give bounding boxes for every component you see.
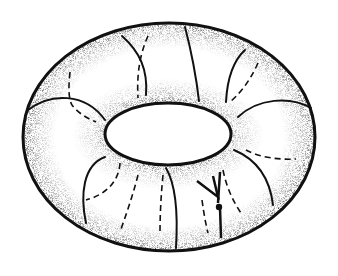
inner-hole-outline — [105, 103, 231, 165]
torus-drawing — [0, 0, 338, 276]
marked-point — [216, 204, 222, 210]
torus-figure — [0, 0, 338, 276]
